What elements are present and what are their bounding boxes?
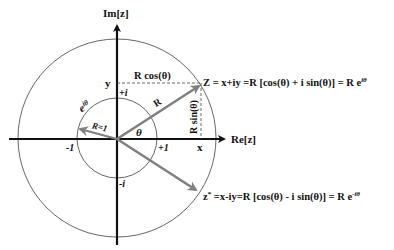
radius-R-label: R xyxy=(151,95,164,109)
tick-plus-i: +i xyxy=(119,87,128,98)
real-axis-label: Re[z] xyxy=(231,133,256,145)
imaginary-axis-label: Im[z] xyxy=(103,7,129,19)
r-sin-theta-label: R sin(θ) xyxy=(188,100,200,134)
r-cos-theta-label: R cos(θ) xyxy=(134,70,171,82)
y-coordinate-label: y xyxy=(105,77,111,89)
x-coordinate-label: x xyxy=(197,141,203,153)
z-equation: Z = x+iy =R [cos(θ) + i sin(θ)] = R eiθ xyxy=(203,76,367,89)
tick-minus-i: -i xyxy=(119,178,125,189)
angle-theta-label: θ xyxy=(136,126,142,138)
tick-plus-one: +1 xyxy=(158,142,169,153)
complex-plane-diagram: Im[z] Re[z] +i -i +1 -1 R=1 eiθ θ R y x … xyxy=(0,0,394,250)
unit-arc-label: eiθ xyxy=(77,98,92,114)
tick-minus-one: -1 xyxy=(66,142,74,153)
conjugate-equation: z* =x-iy=R [cos(θ) - i sin(θ)] = R e-iθ xyxy=(203,190,360,203)
vector-z-arrow xyxy=(117,86,199,139)
